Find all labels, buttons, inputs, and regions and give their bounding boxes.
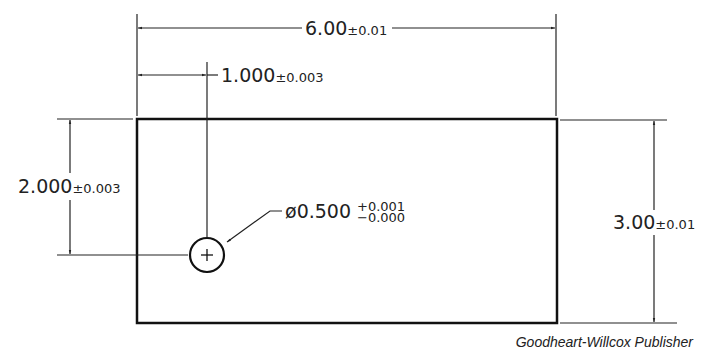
technical-drawing: 6.00±0.01 1.000±0.003 2.000±0.003 3.00±0… <box>0 0 701 354</box>
publisher-credit: Goodheart-Willcox Publisher <box>516 334 693 350</box>
hole-x-dim-text: 1.000±0.003 <box>221 64 324 86</box>
hole <box>190 238 224 272</box>
width-dim-text: 6.00±0.01 <box>305 17 387 39</box>
hole-y-dim-text: 2.000±0.003 <box>18 175 121 197</box>
hole-callout-leader <box>227 211 282 242</box>
height-dim-text: 3.00±0.01 <box>613 211 695 233</box>
hole-callout-lower-tol: −0.000 <box>357 210 405 225</box>
hole-callout-text: ø0.500 <box>285 200 351 222</box>
hole-x-dimension <box>138 62 218 238</box>
